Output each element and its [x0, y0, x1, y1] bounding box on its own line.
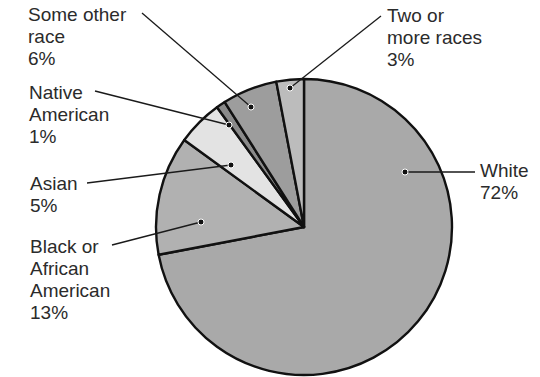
- label-two-or-more-races: Two or more races 3%: [387, 5, 482, 71]
- leader-other: [142, 13, 251, 107]
- label-native-american: Native American 1%: [29, 82, 109, 148]
- label-some-other-race: Some other race 6%: [28, 4, 126, 70]
- leader-native: [95, 91, 229, 125]
- label-white: White 72%: [480, 160, 529, 204]
- label-asian: Asian 5%: [30, 173, 78, 217]
- leader-two: [290, 16, 381, 88]
- pie-slices: [156, 79, 452, 375]
- label-black-african-american: Black or African American 13%: [30, 236, 110, 324]
